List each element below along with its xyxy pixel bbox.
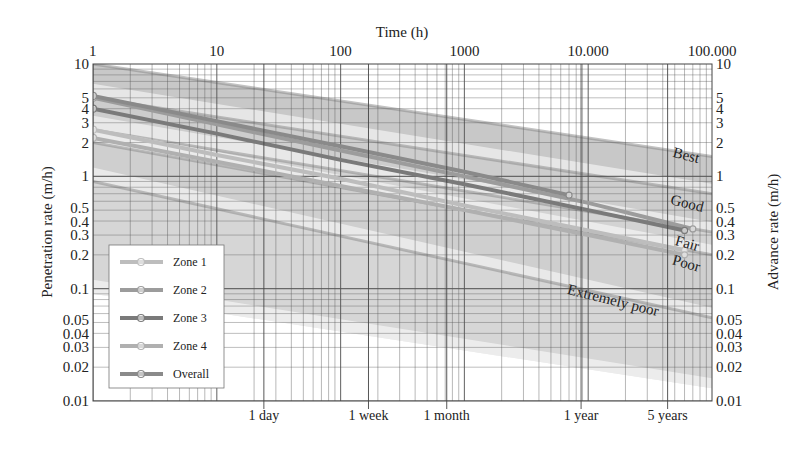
y-tick-label-right: 0.2 — [716, 247, 735, 263]
top-tick-label: 1000 — [449, 43, 479, 59]
legend-marker-icon — [138, 315, 145, 322]
y-tick-label-right: 0.02 — [716, 359, 742, 375]
top-tick-label: 10.000 — [568, 43, 609, 59]
bottom-tick-label: 5 years — [648, 408, 688, 423]
bottom-tick-label: 1 day — [249, 408, 280, 423]
y-tick-label-left: 3 — [82, 115, 90, 131]
y-tick-label-right: 3 — [716, 115, 724, 131]
y-tick-label-left: 10 — [74, 56, 89, 72]
chart: BestGoodFairPoorExtremely poor 110100100… — [0, 0, 804, 449]
legend-label: Overall — [173, 367, 210, 381]
bottom-tick-label: 1 year — [564, 408, 599, 423]
bottom-tick-label: 1 week — [348, 408, 388, 423]
y-axis-title-right: Advance rate (m/h) — [765, 174, 782, 291]
legend-label: Zone 2 — [173, 283, 207, 297]
legend-label: Zone 4 — [173, 339, 207, 353]
legend-label: Zone 1 — [173, 255, 207, 269]
y-axis-title-left: Penetration rate (m/h) — [39, 166, 56, 298]
top-axis-title: Time (h) — [376, 24, 428, 41]
top-tick-label: 1 — [89, 43, 97, 59]
y-tick-label-left: 0.1 — [70, 281, 89, 297]
top-tick-label: 10 — [209, 43, 224, 59]
y-tick-label-left: 1 — [82, 168, 90, 184]
legend-marker-icon — [138, 287, 145, 294]
y-tick-label-left: 0.2 — [70, 247, 89, 263]
y-tick-label-right: 10 — [716, 56, 731, 72]
y-tick-label-right: 1 — [716, 168, 724, 184]
y-tick-label-right: 0.03 — [716, 339, 742, 355]
y-tick-label-left: 2 — [82, 135, 90, 151]
legend-marker-icon — [138, 371, 145, 378]
y-tick-label-right: 0.3 — [716, 227, 735, 243]
y-tick-label-left: 0.01 — [63, 393, 89, 409]
bottom-tick-label: 1 month — [424, 408, 470, 423]
legend-marker-icon — [138, 343, 145, 350]
y-tick-label-right: 2 — [716, 135, 724, 151]
legend-marker-icon — [138, 259, 145, 266]
y-tick-label-right: 0.01 — [716, 393, 742, 409]
y-tick-label-left: 0.3 — [70, 227, 89, 243]
y-tick-label-right: 0.1 — [716, 281, 735, 297]
y-tick-label-left: 0.03 — [63, 339, 89, 355]
legend-label: Zone 3 — [173, 311, 207, 325]
top-tick-label: 100 — [329, 43, 352, 59]
y-tick-label-left: 0.02 — [63, 359, 89, 375]
legend: Zone 1Zone 2Zone 3Zone 4Overall — [109, 245, 224, 388]
